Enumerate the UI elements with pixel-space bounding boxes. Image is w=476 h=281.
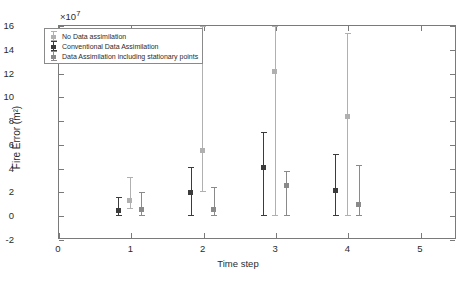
error-bar-cap-lower [356,215,362,216]
x-tick-label: 0 [55,243,60,254]
error-bar-cap-upper [127,177,133,178]
legend-label: Data Assimilation including stationary p… [62,52,198,61]
x-tick-label: 1 [128,243,133,254]
error-bar-stem [347,33,348,216]
y-tick [450,145,455,146]
y-axis-exponent: ×107 [60,9,80,22]
data-point-marker [127,198,132,203]
y-tick [59,240,64,241]
x-axis-title: Time step [0,258,476,269]
y-axis-exponent-power: 7 [76,9,80,18]
x-tick [348,233,349,238]
error-bar-stem [263,132,264,216]
error-bar-stem [141,192,142,216]
y-tick-label: 2 [9,186,14,197]
error-bar-stem [118,197,119,216]
legend-marker-icon [48,51,59,61]
x-tick-label: 2 [200,243,205,254]
error-bar-cap-lower [200,191,206,192]
x-tick-label: 3 [272,243,277,254]
figure-canvas: ×107 Fire Error (m²) Time step 012345-20… [0,0,476,281]
error-bar-stem [359,165,360,216]
error-bar-stem [214,187,215,217]
y-tick-label: 12 [3,67,14,78]
legend-marker-icon [48,31,59,41]
y-tick-label: 16 [3,20,14,31]
data-point-marker [188,190,193,195]
y-tick [450,216,455,217]
y-tick-label: 0 [9,210,14,221]
data-point-marker [333,188,338,193]
y-tick-label: -2 [6,234,14,245]
legend-item: Conventional Data Assimilation [48,41,198,51]
error-bar-cap-lower [116,215,122,216]
y-tick-label: 8 [9,115,14,126]
y-tick-label: 4 [9,162,14,173]
error-bar-cap-upper [333,154,339,155]
error-bar-stem [286,171,287,216]
error-bar-cap-upper [261,132,267,133]
y-tick [450,192,455,193]
y-tick [450,169,455,170]
x-tick [348,26,349,31]
y-axis-exponent-base: ×10 [60,11,76,22]
legend: No Data assimilationConventional Data As… [44,28,203,64]
legend-label: Conventional Data Assimilation [62,42,159,51]
error-bar-cap-upper [211,187,217,188]
data-point-marker [116,208,121,213]
error-bar-cap-lower [188,215,194,216]
y-tick [450,97,455,98]
error-bar-stem [130,177,131,209]
y-tick [59,74,64,75]
error-bar-cap-upper [139,192,145,193]
data-point-marker [345,114,350,119]
error-bar-stem [275,26,276,216]
legend-marker-icon [48,41,59,51]
y-tick [59,169,64,170]
y-tick-label: 6 [9,138,14,149]
y-tick-label: 10 [3,91,14,102]
y-tick [450,121,455,122]
error-bar-cap-lower [345,215,351,216]
data-point-marker [356,202,361,207]
error-bar-cap-lower [139,215,145,216]
y-tick [59,121,64,122]
legend-item: No Data assimilation [48,31,198,41]
y-tick-label: 14 [3,43,14,54]
error-bar-cap-upper [188,167,194,168]
y-tick [450,74,455,75]
x-tick [59,233,60,238]
error-bar-cap-lower [333,215,339,216]
data-point-marker [200,148,205,153]
error-bar-cap-upper [345,33,351,34]
error-bar-cap-lower [272,215,278,216]
error-bar-cap-upper [200,26,206,27]
y-tick [450,240,455,241]
y-tick [59,216,64,217]
error-bar-cap-lower [127,208,133,209]
x-tick [131,233,132,238]
error-bar-cap-upper [272,26,278,27]
x-tick [204,233,205,238]
error-bar-stem [335,154,336,216]
x-tick [421,26,422,31]
data-point-marker [272,69,277,74]
error-bar-cap-upper [284,171,290,172]
x-tick-label: 5 [417,243,422,254]
x-tick [276,233,277,238]
error-bar-cap-upper [116,197,122,198]
x-tick [421,233,422,238]
error-bar-cap-lower [261,215,267,216]
y-tick [59,192,64,193]
y-tick [450,50,455,51]
y-tick [59,26,64,27]
data-point-marker [211,207,216,212]
error-bar-cap-lower [211,215,217,216]
y-tick [59,97,64,98]
error-bar-cap-lower [284,215,290,216]
legend-label: No Data assimilation [62,32,126,41]
y-tick [59,145,64,146]
y-tick [450,26,455,27]
data-point-marker [284,183,289,188]
data-point-marker [139,207,144,212]
